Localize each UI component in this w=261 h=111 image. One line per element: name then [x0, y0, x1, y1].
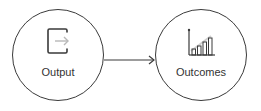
node-outcomes: Outcomes — [155, 9, 247, 101]
node-label: Outcomes — [156, 66, 246, 78]
node-output: Output — [12, 9, 104, 101]
bar-chart-growth-icon — [185, 28, 217, 58]
output-arrow-icon — [43, 27, 73, 57]
node-label: Output — [13, 66, 103, 78]
connector-arrow — [104, 54, 156, 66]
